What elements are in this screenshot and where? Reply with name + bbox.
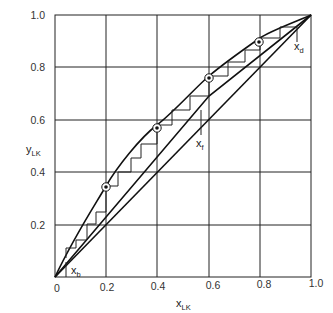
svg-text:0.8: 0.8: [257, 278, 272, 290]
mccabe-thiele-chart: xb xf xd 1.0 0.8 0.6 0.4 0.2 0 0.2 0.4 0…: [0, 0, 333, 313]
svg-text:0.8: 0.8: [30, 61, 45, 73]
svg-text:1.0: 1.0: [309, 277, 324, 289]
svg-text:0.4: 0.4: [30, 166, 45, 178]
x-axis-label: xLK: [176, 297, 191, 312]
y-axis-label: yLK: [26, 143, 41, 158]
svg-text:1.0: 1.0: [30, 9, 45, 21]
diagonal-line: [55, 15, 311, 277]
svg-text:0: 0: [54, 282, 60, 294]
xd-label: xd: [294, 40, 304, 55]
x-tick-labels: 0 0.2 0.4 0.6 0.8 1.0: [54, 277, 323, 294]
marked-points: [102, 38, 263, 191]
svg-text:0.2: 0.2: [30, 219, 45, 231]
xf-label: xf: [196, 137, 205, 152]
svg-text:0.6: 0.6: [30, 114, 45, 126]
svg-text:0.6: 0.6: [206, 279, 221, 291]
svg-text:0.2: 0.2: [100, 281, 115, 293]
svg-text:0.4: 0.4: [151, 280, 166, 292]
y-tick-labels: 1.0 0.8 0.6 0.4 0.2: [30, 9, 45, 231]
